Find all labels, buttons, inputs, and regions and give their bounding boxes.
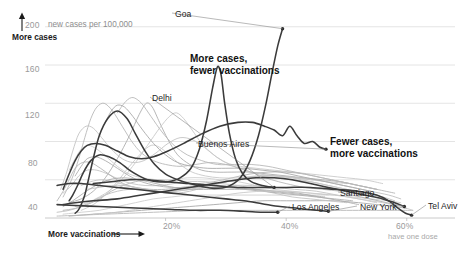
y-tick-label-120: 120	[25, 110, 39, 120]
connected-scatter-chart: 40 80 120 160 200 new cases per 100,000 …	[0, 0, 474, 253]
direction-arrows-layer	[0, 0, 474, 253]
annotation-fewer-cases-more-vaccinations: Fewer cases, more vaccinations	[330, 136, 418, 160]
y-tick-label-40: 40	[28, 202, 38, 212]
series-label-buenos-aires: Buenos Aires	[198, 139, 249, 149]
direction-label-more-cases: More cases	[12, 33, 57, 43]
annotation-line-1: Fewer cases,	[330, 136, 418, 148]
series-label-delhi: Delhi	[152, 93, 172, 103]
annotation-line-2: fewer vaccinations	[190, 65, 279, 77]
series-label-los-angeles: Los Angeles	[292, 202, 339, 212]
y-tick-label-200: 200	[25, 20, 39, 30]
series-label-tel-aviv: Tel Aviv	[428, 201, 457, 211]
series-label-goa: Goa	[175, 9, 191, 19]
x-axis-unit-note: have one dose	[388, 232, 438, 241]
y-tick-label-160: 160	[25, 64, 39, 74]
y-tick-label-80: 80	[28, 158, 38, 168]
series-label-new-york: New York	[360, 202, 397, 212]
x-tick-label-40: 40%	[281, 221, 298, 231]
annotation-line-1: More cases,	[190, 53, 279, 65]
series-label-santiago: Santiago	[340, 188, 374, 198]
annotation-line-2: more vaccinations	[330, 148, 418, 160]
annotation-more-cases-fewer-vaccinations: More cases, fewer vaccinations	[190, 53, 279, 77]
y-axis-unit-note: new cases per 100,000	[48, 20, 133, 29]
x-tick-label-60: 60%	[396, 221, 413, 231]
x-tick-label-20: 20%	[163, 221, 180, 231]
direction-label-more-vaccinations: More vaccinations	[48, 230, 120, 240]
